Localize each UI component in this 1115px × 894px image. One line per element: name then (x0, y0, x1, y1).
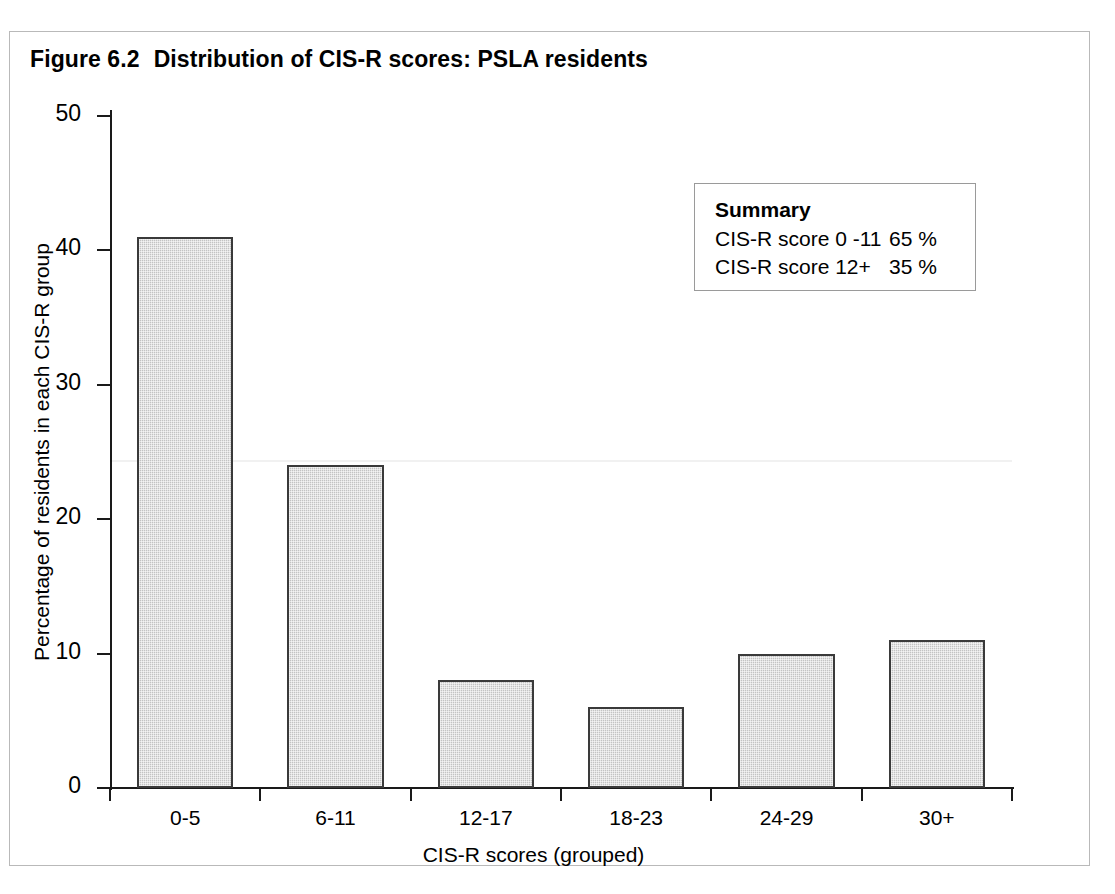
x-axis-tick-label: 30+ (862, 806, 1012, 830)
bar-18-23 (588, 707, 684, 788)
x-axis-tick (710, 788, 712, 801)
summary-row-value: 35 % (889, 255, 937, 279)
summary-row-label: CIS-R score 12+ (715, 255, 871, 279)
y-axis-tick-label: 50 (55, 100, 81, 127)
bar-30+ (889, 640, 985, 788)
x-axis-tick-label: 0-5 (110, 806, 260, 830)
figure-container: Figure 6.2Distribution of CIS-R scores: … (0, 0, 1115, 894)
y-axis-tick-label: 0 (68, 772, 81, 799)
summary-heading: Summary (715, 198, 811, 222)
figure-number: Figure 6.2 (30, 46, 154, 72)
x-axis-tick (410, 788, 412, 801)
figure-title: Figure 6.2Distribution of CIS-R scores: … (30, 46, 648, 73)
x-axis-tick (861, 788, 863, 801)
y-axis-tick (97, 653, 110, 655)
bar-0-5 (137, 237, 233, 788)
y-axis-tick-label: 40 (55, 234, 81, 261)
y-axis-tick-label: 10 (55, 638, 81, 665)
y-axis-tick (97, 384, 110, 386)
summary-box: Summary CIS-R score 0 -11 65 % CIS-R sco… (694, 183, 976, 291)
y-axis-tick-label: 20 (55, 503, 81, 530)
x-axis-tick-label: 6-11 (260, 806, 410, 830)
y-axis-tick (97, 518, 110, 520)
y-axis-tick-label: 30 (55, 369, 81, 396)
x-axis-tick (109, 788, 111, 801)
y-axis-title: Percentage of residents in each CIS-R gr… (30, 122, 54, 782)
figure-title-text: Distribution of CIS-R scores: PSLA resid… (154, 46, 648, 72)
x-axis-tick (259, 788, 261, 801)
x-axis-tick (560, 788, 562, 801)
x-axis-tick (1011, 788, 1013, 801)
summary-row-label: CIS-R score 0 -11 (715, 227, 882, 251)
bar-12-17 (438, 680, 534, 788)
y-axis-tick (97, 115, 110, 117)
x-axis-tick-label: 18-23 (561, 806, 711, 830)
bar-24-29 (738, 654, 834, 788)
summary-row-value: 65 % (889, 227, 937, 251)
x-axis-tick-label: 12-17 (411, 806, 561, 830)
bar-6-11 (287, 465, 383, 788)
x-axis-title: CIS-R scores (grouped) (0, 843, 1115, 867)
x-axis-tick-label: 24-29 (711, 806, 861, 830)
y-axis-tick (97, 249, 110, 251)
